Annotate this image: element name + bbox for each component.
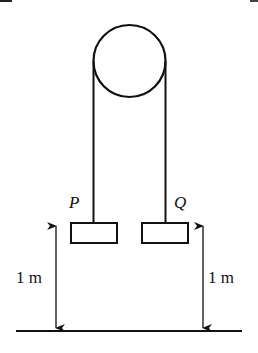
label-p: P — [68, 193, 79, 212]
mass-p — [71, 223, 117, 243]
mass-q — [142, 223, 188, 243]
label-q: Q — [174, 193, 186, 212]
cropped-text-fragment — [0, 0, 12, 2]
height-label-right: 1 m — [208, 268, 234, 287]
height-label-left: 1 m — [16, 268, 42, 287]
pulley-wheel — [94, 25, 166, 97]
cropped-text-fragment — [250, 0, 258, 2]
pulley-diagram: P Q 1 m 1 m — [0, 0, 258, 353]
